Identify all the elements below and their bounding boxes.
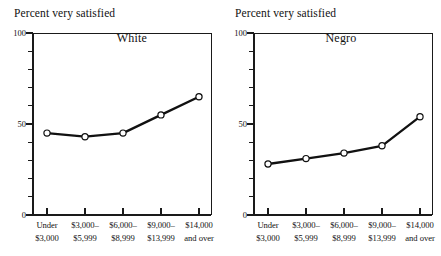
data-markers-white (44, 94, 202, 140)
x-tick-label-4-line1: $14,000 (185, 220, 213, 230)
data-line-negro (268, 117, 420, 164)
x-tick-label-4: $14,000 and over (388, 219, 441, 245)
x-axis-labels-negro: Under $3,000 $3,000– $5,999 $6,000– $8,9… (221, 219, 441, 255)
figure: Percent very satisfied White 100 50 0 (0, 0, 441, 256)
chart-panel-white: Percent very satisfied White 100 50 0 (0, 0, 220, 256)
x-tick-label-4-line1: $14,000 (406, 220, 434, 230)
plot-area-white (0, 0, 220, 256)
x-tick-label-4-line2: and over (388, 232, 441, 245)
data-markers-negro (265, 114, 423, 167)
plot-area-negro (221, 0, 441, 256)
x-axis-labels-white: Under $3,000 $3,000– $5,999 $6,000– $8,9… (0, 219, 220, 255)
chart-panel-negro: Percent very satisfied Negro 100 50 0 (221, 0, 441, 256)
